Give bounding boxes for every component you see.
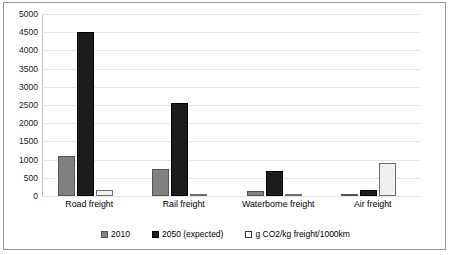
chart-legend: 20102050 (expected)g CO2/kg freight/1000… [0, 227, 451, 241]
legend-label: g CO2/kg freight/1000km [255, 230, 350, 239]
bar-group [326, 14, 421, 196]
bar [171, 103, 188, 196]
bar [247, 191, 264, 196]
gridline [42, 196, 420, 197]
bar [96, 190, 113, 196]
y-axis-tick-label: 4500 [0, 28, 38, 37]
y-axis-tick-label: 5000 [0, 10, 38, 19]
y-axis-tick-label: 2000 [0, 119, 38, 128]
bar [341, 194, 358, 196]
x-axis-category-label: Waterborne freight [231, 200, 326, 210]
bar [266, 171, 283, 196]
y-axis-tick-label: 3000 [0, 83, 38, 92]
legend-item[interactable]: 2010 [101, 230, 130, 239]
legend-label: 2010 [111, 230, 130, 239]
y-axis-tick-labels: 5000450040003500300025002000150010005000 [0, 0, 38, 255]
grouped-bar-chart: 5000450040003500300025002000150010005000… [0, 0, 451, 255]
x-axis-category-label: Rail freight [137, 200, 232, 210]
y-axis-tick-label: 0 [0, 192, 38, 201]
bar-group [231, 14, 326, 196]
x-axis-category-label: Road freight [42, 200, 137, 210]
x-axis-category-label: Air freight [326, 200, 421, 210]
y-axis-tick-label: 1500 [0, 137, 38, 146]
bar [379, 163, 396, 196]
bar [77, 32, 94, 196]
y-axis-tick-label: 4000 [0, 46, 38, 55]
plot-area [42, 14, 420, 196]
bar-group [42, 14, 137, 196]
y-axis-tick-label: 2500 [0, 101, 38, 110]
legend-label: 2050 (expected) [162, 230, 223, 239]
legend-swatch-icon [101, 231, 108, 238]
legend-item[interactable]: 2050 (expected) [152, 230, 223, 239]
y-axis-tick-label: 500 [0, 174, 38, 183]
bar-group [137, 14, 232, 196]
bar [360, 190, 377, 196]
bar [190, 194, 207, 196]
bar [58, 156, 75, 196]
bar [285, 194, 302, 196]
bar [152, 169, 169, 196]
legend-item[interactable]: g CO2/kg freight/1000km [245, 230, 350, 239]
legend-swatch-icon [152, 231, 159, 238]
y-axis-tick-label: 3500 [0, 65, 38, 74]
legend-swatch-icon [245, 231, 252, 238]
y-axis-tick-label: 1000 [0, 156, 38, 165]
